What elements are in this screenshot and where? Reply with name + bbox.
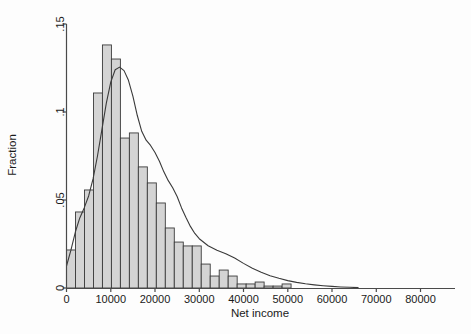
y-axis-title: Fraction [6, 134, 18, 176]
histogram-bar [111, 59, 120, 288]
x-tick-label: 70000 [361, 293, 392, 305]
histogram-bar [255, 282, 264, 288]
chart-canvas: 0.05.1.15 010000200003000040000500006000… [0, 0, 471, 334]
x-tick-label: 40000 [228, 293, 259, 305]
histogram-bar [67, 250, 76, 288]
x-tick-label: 80000 [405, 293, 436, 305]
histogram-bar [273, 286, 282, 288]
histogram-figure: 0.05.1.15 010000200003000040000500006000… [0, 0, 471, 334]
histogram-bar [174, 242, 183, 288]
histogram-bar [237, 284, 246, 288]
x-tick-label: 20000 [140, 293, 171, 305]
y-tick-label: .1 [54, 107, 66, 116]
histogram-bar [192, 246, 201, 288]
histogram-bar [183, 246, 192, 288]
histogram-bar [165, 228, 174, 288]
y-tick-label: .15 [54, 16, 66, 31]
histogram-bar [147, 183, 156, 288]
histogram-bar [102, 45, 111, 288]
x-tick-label: 0 [63, 293, 69, 305]
histogram-bar [264, 286, 273, 288]
x-axis-title: Net income [231, 307, 289, 319]
histogram-bar [138, 167, 147, 288]
x-tick-label: 10000 [96, 293, 127, 305]
y-tick-label: 0 [54, 285, 66, 291]
histogram-bar [228, 276, 237, 288]
x-tick-label: 50000 [273, 293, 304, 305]
histogram-bar [246, 284, 255, 288]
histogram-bar [201, 264, 210, 288]
histogram-bar [210, 276, 219, 288]
x-tick-label: 30000 [184, 293, 215, 305]
histogram-bar [129, 133, 138, 288]
histogram-bar [282, 284, 291, 288]
y-tick-label: .05 [54, 192, 66, 207]
histogram-bar [156, 203, 165, 288]
histogram-bar [120, 138, 129, 288]
histogram-bar [75, 212, 84, 288]
histogram-bar [219, 270, 228, 288]
histogram-bar [93, 93, 102, 288]
x-tick-label: 60000 [317, 293, 348, 305]
